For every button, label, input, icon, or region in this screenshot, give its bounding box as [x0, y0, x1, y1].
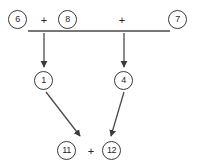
- circled-number-8: 8: [58, 10, 77, 29]
- circled-number-1: 1: [34, 71, 53, 90]
- circled-number-7: 7: [168, 10, 187, 29]
- operator-plus-top-left: +: [38, 15, 50, 26]
- diagram-vector-layer: [0, 0, 198, 166]
- arrow-diagonal-right: [111, 92, 124, 136]
- operator-plus-top-right: +: [116, 15, 128, 26]
- arrow-diagonal-left: [46, 92, 80, 136]
- circled-number-11: 11: [57, 141, 76, 160]
- circled-number-4: 4: [114, 71, 133, 90]
- diagram-canvas: 6 + 8 + 7 1 4 11 + 12: [0, 0, 198, 166]
- circled-number-6: 6: [8, 10, 27, 29]
- operator-plus-bottom: +: [85, 146, 97, 157]
- circled-number-12: 12: [102, 141, 121, 160]
